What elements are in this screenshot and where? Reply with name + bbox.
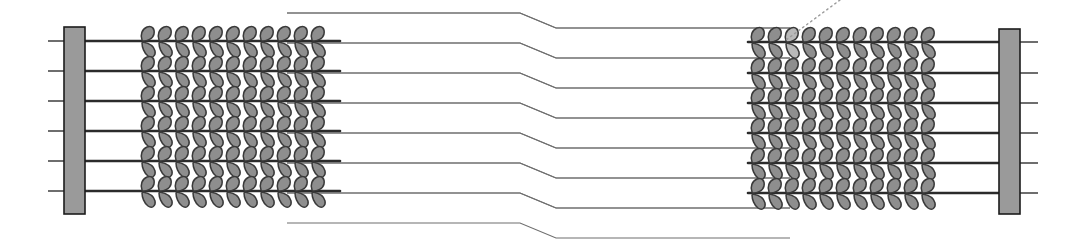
myosin-head-down	[922, 164, 935, 179]
myosin-head-up	[785, 178, 798, 193]
myosin-head-down	[854, 194, 867, 209]
myosin-head-up	[141, 56, 154, 71]
thick-filament	[85, 86, 340, 117]
myosin-head-down	[142, 162, 155, 177]
myosin-head-up	[192, 116, 205, 131]
myosin-head-down	[227, 132, 240, 147]
myosin-head-up	[836, 148, 849, 163]
myosin-head-up	[158, 86, 171, 101]
myosin-head-up	[158, 176, 171, 191]
myosin-head-up	[260, 86, 273, 101]
myosin-head-down	[312, 162, 325, 177]
myosin-head-up	[226, 116, 239, 131]
myosin-head-down	[786, 164, 799, 179]
myosin-head-up	[802, 178, 815, 193]
myosin-head-up	[311, 176, 324, 191]
myosin-head-up	[192, 146, 205, 161]
myosin-head-up	[768, 27, 781, 42]
myosin-head-down	[854, 134, 867, 149]
myosin-head-up	[819, 178, 832, 193]
myosin-head-down	[210, 192, 223, 207]
myosin-head-down	[837, 134, 850, 149]
myosin-head-down	[176, 162, 189, 177]
myosin-head-up	[209, 26, 222, 41]
myosin-head-down	[871, 74, 884, 89]
thick-filament	[748, 178, 999, 209]
sarcomere-figure: Sarcomere thick and thin filament arrang…	[0, 0, 1077, 242]
myosin-head-up	[785, 58, 798, 73]
myosin-head-up	[887, 148, 900, 163]
myosin-head-up	[887, 27, 900, 42]
myosin-head-down	[227, 72, 240, 87]
myosin-head-up	[904, 27, 917, 42]
myosin-head-up	[751, 58, 764, 73]
thin-filament-midline-segment	[287, 163, 556, 178]
thick-filament	[748, 27, 999, 58]
myosin-head-up	[853, 88, 866, 103]
myosin-head-up	[751, 88, 764, 103]
myosin-head-down	[244, 102, 257, 117]
myosin-head-down	[752, 104, 765, 119]
myosin-head-down	[820, 134, 833, 149]
myosin-head-up	[751, 178, 764, 193]
left-z-disk	[64, 27, 85, 214]
myosin-head-up	[175, 26, 188, 41]
myosin-head-down	[820, 74, 833, 89]
myosin-head-down	[176, 132, 189, 147]
myosin-head-up	[260, 116, 273, 131]
myosin-head-up	[921, 88, 934, 103]
myosin-head-up	[158, 56, 171, 71]
myosin-head-down	[786, 134, 799, 149]
myosin-head-up	[277, 56, 290, 71]
myosin-head-down	[871, 194, 884, 209]
myosin-head-up	[819, 148, 832, 163]
myosin-head-down	[922, 194, 935, 209]
myosin-head-down	[769, 134, 782, 149]
myosin-head-down	[312, 72, 325, 87]
myosin-head-down	[769, 43, 782, 58]
myosin-head-up	[294, 146, 307, 161]
myosin-head-down	[159, 72, 172, 87]
myosin-head-up	[209, 116, 222, 131]
myosin-head-down	[142, 192, 155, 207]
myosin-head-up	[887, 58, 900, 73]
thin-filament-midline-segment	[287, 193, 556, 208]
myosin-head-up	[836, 178, 849, 193]
myosin-head-down	[278, 42, 291, 57]
thin-filament-midline-segment	[287, 103, 556, 118]
myosin-head-down	[752, 194, 765, 209]
myosin-head-up	[921, 148, 934, 163]
myosin-head-down	[244, 72, 257, 87]
thick-filament	[748, 58, 999, 89]
myosin-head-down	[278, 132, 291, 147]
myosin-head-up	[785, 118, 798, 133]
myosin-head-down	[210, 132, 223, 147]
myosin-head-up	[192, 56, 205, 71]
myosin-head-down	[837, 43, 850, 58]
myosin-head-up	[768, 178, 781, 193]
myosin-head-down	[752, 74, 765, 89]
myosin-head-down	[803, 74, 816, 89]
myosin-head-down	[244, 42, 257, 57]
myosin-head-down	[786, 74, 799, 89]
myosin-head-down	[803, 104, 816, 119]
myosin-head-up	[243, 56, 256, 71]
thick-filament	[85, 146, 340, 177]
myosin-head-down	[820, 43, 833, 58]
myosin-head-up	[175, 56, 188, 71]
myosin-head-up	[277, 86, 290, 101]
myosin-head-up	[175, 86, 188, 101]
myosin-head-down	[837, 164, 850, 179]
myosin-head-down	[905, 134, 918, 149]
myosin-head-up	[141, 116, 154, 131]
myosin-head-up	[802, 88, 815, 103]
myosin-head-up	[819, 27, 832, 42]
myosin-head-up	[836, 118, 849, 133]
myosin-head-up	[209, 176, 222, 191]
myosin-head-up	[209, 56, 222, 71]
myosin-head-up	[226, 56, 239, 71]
myosin-head-down	[905, 43, 918, 58]
myosin-head-down	[922, 43, 935, 58]
myosin-head-up	[311, 146, 324, 161]
myosin-head-down	[871, 164, 884, 179]
